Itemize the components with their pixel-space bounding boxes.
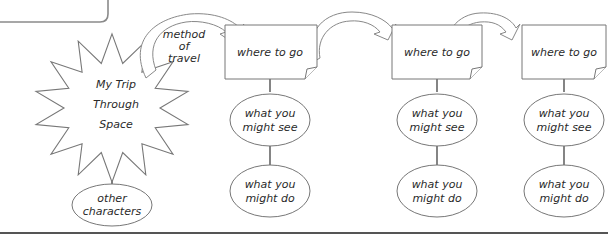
- might-see-label: what you: [245, 107, 296, 120]
- other-characters-label: other: [97, 192, 128, 205]
- might-see-label: might see: [410, 121, 465, 134]
- might-do-node: [230, 165, 310, 217]
- star-title-label: Through: [93, 98, 139, 111]
- might-do-label: might do: [539, 192, 589, 205]
- might-see-label: might see: [537, 121, 592, 134]
- frame-corner: [0, 0, 108, 22]
- might-do-label: might do: [245, 192, 295, 205]
- might-do-node: [524, 165, 604, 217]
- other-characters-label: characters: [83, 205, 142, 218]
- curved-arrow-1-2: [311, 12, 396, 62]
- might-do-label: what you: [539, 178, 590, 191]
- where-to-go-label: where to go: [531, 46, 597, 59]
- might-see-node: [230, 94, 310, 146]
- star-title-label: My Trip: [96, 78, 136, 91]
- might-see-node: [397, 94, 477, 146]
- might-see-node: [524, 94, 604, 146]
- method-of-travel-label: travel: [168, 52, 200, 65]
- might-do-node: [397, 165, 477, 217]
- story-map-diagram: where to gowhat youmight seewhat youmigh…: [0, 0, 608, 236]
- where-to-go-label: where to go: [404, 46, 470, 59]
- where-to-go-label: where to go: [237, 46, 303, 59]
- star-title-label: Space: [99, 118, 133, 131]
- might-do-label: what you: [412, 178, 463, 191]
- might-see-label: what you: [539, 107, 590, 120]
- might-do-label: what you: [245, 178, 296, 191]
- might-do-label: might do: [412, 192, 462, 205]
- might-see-label: might see: [243, 121, 298, 134]
- might-see-label: what you: [412, 107, 463, 120]
